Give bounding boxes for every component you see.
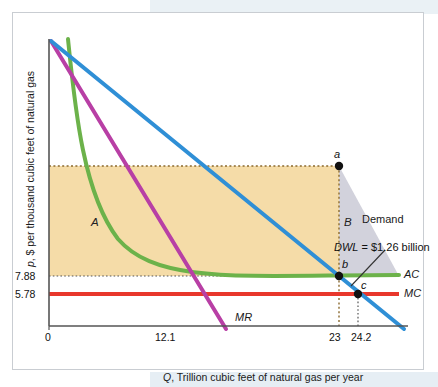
x-axis-title-text: , Trillion cubic feet of natural gas per…: [171, 371, 363, 383]
point-label-c: c: [361, 279, 367, 291]
y-axis-title: p, $ per thousand cubic feet of natural …: [24, 54, 36, 284]
curve-label-mc: MC: [404, 287, 421, 299]
dwl-annotation: DWL = $1.26 billion: [334, 241, 430, 253]
xtick-label-0: 0: [45, 331, 51, 343]
point-c-marker: [354, 290, 362, 298]
point-a-marker: [335, 162, 343, 170]
y-axis-title-symbol: p: [24, 261, 36, 267]
curve-label-mr: MR: [235, 311, 252, 323]
figure-card: p, $ per thousand cubic feet of natural …: [12, 12, 424, 370]
x-axis-title-symbol: Q: [163, 371, 171, 383]
region-label-a: A: [91, 216, 99, 228]
xtick-label-121: 12.1: [155, 331, 175, 343]
x-axis-title: Q, Trillion cubic feet of natural gas pe…: [163, 371, 363, 383]
curve-label-ac: AC: [404, 268, 419, 280]
curve-label-demand: Demand: [362, 213, 404, 225]
point-label-a: a: [334, 148, 340, 160]
ytick-label-578: 5.78: [15, 288, 35, 300]
region-label-b: B: [344, 216, 352, 228]
economics-plot: [13, 13, 423, 369]
point-b-marker: [335, 272, 343, 280]
xtick-label-242: 24.2: [351, 331, 371, 343]
y-axis-title-text: , $ per thousand cubic feet of natural g…: [24, 71, 36, 261]
dwl-annotation-text: = $1.26 billion: [358, 241, 429, 253]
ytick-label-788: 7.88: [15, 270, 35, 282]
page-band-left-bottom: [0, 372, 150, 387]
xtick-label-23: 23: [329, 331, 341, 343]
point-label-b: b: [342, 258, 348, 270]
dwl-annotation-symbol: DWL: [334, 241, 358, 253]
